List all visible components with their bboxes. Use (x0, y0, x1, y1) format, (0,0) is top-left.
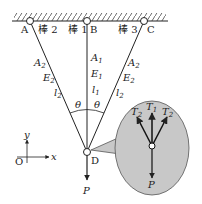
label-rod2: 棒 2 (38, 23, 58, 35)
rod1-area: A1 (90, 52, 103, 65)
axis-y-label: y (23, 129, 30, 140)
rod3-area: A2 (127, 57, 140, 70)
label-B: B (90, 24, 97, 35)
rod1-length: l1 (92, 84, 100, 97)
rod-2 (30, 21, 87, 152)
label-C: C (147, 24, 155, 35)
rod2-area: A2 (33, 57, 46, 70)
truss-diagram: A 棒 2 棒 1 B 棒 3 C A1 E1 l1 A2 E2 l2 A2 E… (0, 0, 202, 204)
rod3-length: l2 (116, 87, 124, 100)
inset-P: P (147, 179, 155, 190)
joint-D (84, 149, 91, 156)
label-rod3: 棒 3 (118, 23, 138, 35)
rod2-length: l2 (54, 87, 62, 100)
rod3-modulus: E2 (122, 72, 135, 85)
angle-right: θ (94, 99, 100, 110)
axis-origin-label: O (15, 156, 23, 167)
label-P: P (82, 185, 90, 196)
label-D: D (91, 155, 99, 166)
axis-x-label: x (51, 151, 57, 162)
angle-left: θ (75, 99, 81, 110)
rod1-modulus: E1 (90, 68, 103, 81)
label-A: A (20, 24, 29, 35)
label-rod1: 棒 1 (68, 23, 88, 35)
